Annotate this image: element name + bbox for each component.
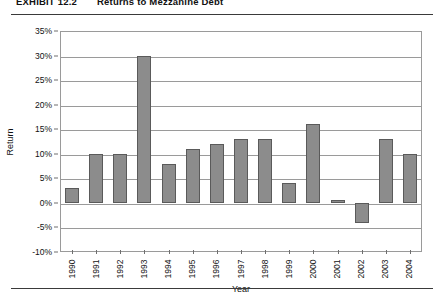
gridlines <box>61 32 421 251</box>
y-axis-labels: 35%30%25%20%15%10%5%0%-5%-10% <box>0 31 58 252</box>
exhibit-caption-title: Returns to Mezzanine Debt <box>97 0 223 7</box>
x-axis-tick-label: 1995 <box>188 260 198 279</box>
y-axis-tick-label: 0% <box>40 198 52 208</box>
gridline <box>61 204 421 205</box>
gridline <box>61 155 421 156</box>
y-axis-tick <box>54 202 58 203</box>
y-axis-tick <box>54 31 58 32</box>
caption-divider-bottom <box>11 288 433 289</box>
y-axis-tick-label: 5% <box>40 173 52 183</box>
chart-figure: Return 35%30%25%20%15%10%5%0%-5%-10% 199… <box>0 18 444 284</box>
x-axis-tick-label: 2004 <box>405 260 415 279</box>
exhibit-caption-label: EXHIBIT 12.2 <box>16 0 77 7</box>
x-axis-tick-label: 2003 <box>381 260 391 279</box>
y-axis-tick-label: 30% <box>35 51 52 61</box>
y-axis-tick <box>54 178 58 179</box>
y-axis-tick-label: 15% <box>35 124 52 134</box>
gridline <box>61 228 421 229</box>
exhibit-caption: EXHIBIT 12.2Returns to Mezzanine Debt <box>0 0 444 9</box>
y-axis-tick-label: 25% <box>35 75 52 85</box>
gridline <box>61 106 421 107</box>
x-axis-tick-label: 1992 <box>115 260 125 279</box>
y-axis-tick-label: 35% <box>35 26 52 36</box>
x-axis-tick-label: 2002 <box>357 260 367 279</box>
y-axis-tick <box>54 227 58 228</box>
y-axis-tick <box>54 153 58 154</box>
x-axis-tick-label: 1998 <box>260 260 270 279</box>
x-axis-tick-label: 2000 <box>308 260 318 279</box>
gridline <box>61 57 421 58</box>
x-axis-title: Year <box>60 284 422 294</box>
caption-divider-top <box>11 14 433 15</box>
x-axis-labels: 1990199119921993199419951996199719981999… <box>60 254 422 286</box>
x-axis-tick-label: 1990 <box>67 260 77 279</box>
x-axis-tick-label: 1996 <box>212 260 222 279</box>
y-axis-tick-label: -5% <box>37 222 52 232</box>
x-axis-tick-label: 1999 <box>284 260 294 279</box>
x-axis-tick-label-wrap: 2004 <box>393 254 427 284</box>
y-axis-tick <box>54 104 58 105</box>
gridline <box>61 130 421 131</box>
y-axis-tick-label: 20% <box>35 100 52 110</box>
x-axis-tick-label: 1993 <box>139 260 149 279</box>
plot-area <box>60 31 422 252</box>
y-axis-tick-label: -10% <box>32 247 52 257</box>
x-axis-tick-label: 2001 <box>333 260 343 279</box>
gridline <box>61 81 421 82</box>
x-axis-tick-label: 1994 <box>164 260 174 279</box>
y-axis-tick-label: 10% <box>35 149 52 159</box>
x-axis-tick-label: 1997 <box>236 260 246 279</box>
y-axis-tick <box>54 129 58 130</box>
y-axis-tick <box>54 80 58 81</box>
x-axis-tick-label: 1991 <box>91 260 101 279</box>
gridline <box>61 179 421 180</box>
y-axis-tick <box>54 55 58 56</box>
y-axis-tick <box>54 252 58 253</box>
